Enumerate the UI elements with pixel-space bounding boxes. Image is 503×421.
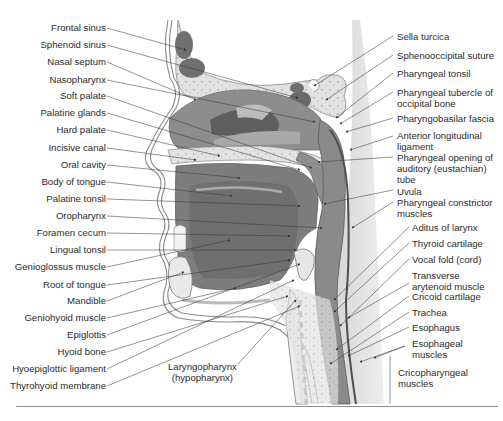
label-esophagus: Esophagus	[412, 322, 460, 333]
label-line: Cricopharyngeal	[398, 367, 468, 378]
label-sella-turcica: Sella turcica	[397, 31, 449, 42]
label-nasopharynx: Nasopharynx	[49, 74, 106, 85]
label-pharyngeal-constrictor-muscles: Pharyngeal constrictor muscles	[397, 197, 492, 219]
label-laryngopharynx: Laryngopharynx (hypopharynx)	[168, 361, 237, 383]
label-esophageal-muscles: Esophageal muscles	[412, 338, 463, 360]
label-nasal-septum: Nasal septum	[47, 56, 106, 67]
label-foramen-cecum: Foramen cecum	[37, 227, 106, 238]
label-hard-palate: Hard palate	[56, 124, 106, 135]
label-palatine-tonsil: Palatine tonsil	[46, 193, 106, 204]
label-vocal-fold: Vocal fold (cord)	[412, 254, 481, 265]
label-geniohyoid-muscle: Geniohyoid muscle	[24, 312, 106, 323]
label-pharyngeal-opening-auditory-tube: Pharyngeal opening of auditory (eustachi…	[397, 152, 493, 185]
label-line: muscles	[398, 378, 468, 389]
figure-bottom-rule	[16, 406, 498, 407]
label-line: Pharyngeal opening of	[397, 152, 493, 163]
label-line: tube	[397, 174, 493, 185]
label-trachea: Trachea	[412, 307, 447, 318]
label-pharyngobasilar-fascia: Pharyngobasilar fascia	[397, 113, 494, 124]
label-thyroid-cartilage: Thyroid cartilage	[412, 238, 483, 249]
label-sphenoid-sinus: Sphenoid sinus	[40, 39, 106, 50]
label-oral-cavity: Oral cavity	[61, 159, 106, 170]
label-line: ligament	[397, 141, 482, 152]
label-line: muscles	[397, 208, 492, 219]
label-pharyngeal-tonsil: Pharyngeal tonsil	[397, 68, 471, 79]
label-lingual-tonsil: Lingual tonsil	[50, 244, 106, 255]
label-line: Pharyngeal tubercle of	[397, 87, 493, 98]
label-line: muscles	[412, 349, 463, 360]
label-thyrohyoid-membrane: Thyrohyoid membrane	[10, 380, 106, 391]
label-pharyngeal-tubercle: Pharyngeal tubercle of occipital bone	[397, 87, 493, 109]
label-root-of-tongue: Root of tongue	[43, 279, 106, 290]
label-line: Anterior longitudinal	[397, 130, 482, 141]
label-cricopharyngeal-muscles: Cricopharyngeal muscles	[398, 367, 468, 389]
label-mandible: Mandible	[67, 295, 106, 306]
label-line: Esophageal	[412, 338, 463, 349]
label-incisive-canal: Incisive canal	[48, 142, 106, 153]
label-line: auditory (eustachian)	[397, 163, 493, 174]
label-palatine-glands: Palatine glands	[40, 107, 106, 118]
label-line: occipital bone	[397, 98, 493, 109]
label-aditus-of-larynx: Aditus of larynx	[412, 222, 478, 233]
label-anterior-longitudinal-ligament: Anterior longitudinal ligament	[397, 130, 482, 152]
label-soft-palate: Soft palate	[60, 90, 106, 101]
label-line: Transverse	[412, 270, 485, 281]
label-frontal-sinus: Frontal sinus	[51, 22, 106, 33]
label-cricoid-cartilage: Cricoid cartilage	[412, 291, 481, 302]
label-line: (hypopharynx)	[168, 372, 237, 383]
label-hyoepiglottic-ligament: Hyoepiglottic ligament	[12, 363, 106, 374]
label-uvula: Uvula	[397, 186, 422, 197]
label-epiglottis: Epiglottis	[67, 329, 106, 340]
label-line: Pharyngeal constrictor	[397, 197, 492, 208]
label-genioglossus-muscle: Genioglossus muscle	[15, 261, 106, 272]
label-line: Laryngopharynx	[168, 361, 237, 372]
label-body-of-tongue: Body of tongue	[41, 176, 106, 187]
label-oropharynx: Oropharynx	[56, 210, 106, 221]
label-transverse-arytenoid-muscle: Transverse arytenoid muscle	[412, 270, 485, 292]
label-sphenooccipital-suture: Sphenooccipital suture	[397, 50, 494, 61]
label-hyoid-bone: Hyoid bone	[57, 346, 106, 357]
